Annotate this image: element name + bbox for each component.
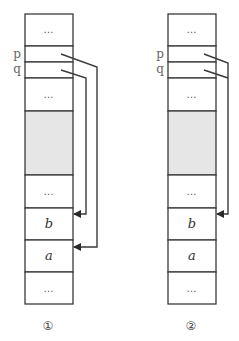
cell-pointer-p [25, 46, 73, 62]
var-a-label: a [45, 248, 53, 263]
cell-pointer-q [25, 62, 73, 78]
ellipsis-text: … [187, 89, 198, 100]
ellipsis-text: … [44, 186, 55, 197]
cell-shaded-region [25, 111, 73, 175]
ellipsis-text: … [44, 24, 55, 35]
ellipsis-text: … [44, 89, 55, 100]
pointer-label-p: p [13, 47, 21, 61]
diagram-2: … … … b a … p q ② [156, 14, 228, 333]
pointer-label-q: q [156, 62, 164, 76]
memory-column-1: … … … b a … [25, 14, 73, 304]
cell-pointer-p [168, 46, 216, 62]
pointer-label-p: p [156, 47, 164, 61]
caption-2: ② [186, 319, 197, 333]
ellipsis-text: … [187, 283, 198, 294]
cell-pointer-q [168, 62, 216, 78]
diagram-1: … … … b a … p q ① [13, 14, 97, 333]
cell-shaded-region [168, 111, 216, 175]
var-b-label: b [45, 216, 53, 231]
pointer-memory-diagram: … … … b a … p q ① … [0, 0, 239, 341]
memory-column-2: … … … b a … [168, 14, 216, 304]
caption-1: ① [43, 319, 54, 333]
var-b-label: b [188, 216, 196, 231]
pointer-label-q: q [13, 62, 21, 76]
ellipsis-text: … [187, 24, 198, 35]
ellipsis-text: … [44, 283, 55, 294]
var-a-label: a [188, 248, 196, 263]
ellipsis-text: … [187, 186, 198, 197]
